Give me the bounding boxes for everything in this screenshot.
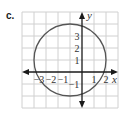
coordinate-graph: y x −3 −2 −1 1 2 3 2 1 −1 (0, 0, 120, 117)
x-tick-label: −2 (46, 74, 57, 85)
y-tick-label: 2 (75, 43, 80, 54)
grid (22, 12, 118, 108)
x-tick-label: −1 (58, 74, 69, 85)
x-axis-left-arrow-icon (22, 69, 29, 75)
y-axis-top-arrow-icon (79, 12, 85, 19)
y-axis-label: y (86, 9, 92, 21)
y-tick-label: −1 (69, 79, 80, 90)
y-tick-label: 1 (75, 55, 80, 66)
x-tick-label: 2 (104, 74, 109, 85)
x-tick-label: −3 (34, 74, 45, 85)
y-axis-bottom-arrow-icon (79, 101, 85, 108)
y-tick-label: 3 (75, 31, 80, 42)
x-axis-label: x (111, 73, 117, 85)
x-tick-label: 1 (92, 74, 97, 85)
